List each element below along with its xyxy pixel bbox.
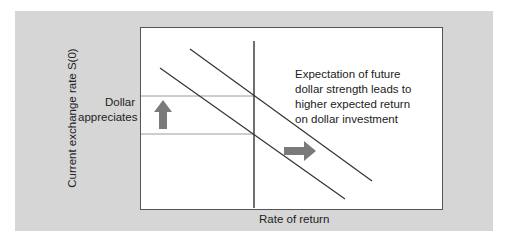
note-line: on dollar investment (295, 112, 435, 127)
expectation-note: Expectation of future dollar strength le… (295, 67, 435, 127)
dollar-appreciates-label: Dollar appreciates (78, 95, 135, 125)
x-axis-label: Rate of return (259, 213, 329, 225)
note-line: higher expected return (295, 97, 435, 112)
y-axis-label: Current exchange rate S(0) (66, 18, 78, 218)
annotation-line: Dollar (78, 95, 135, 110)
annotation-line: appreciates (78, 110, 135, 125)
note-line: Expectation of future (295, 67, 435, 82)
note-line: dollar strength leads to (295, 82, 435, 97)
up-arrow-icon (154, 100, 172, 129)
right-arrow-icon (284, 141, 316, 161)
